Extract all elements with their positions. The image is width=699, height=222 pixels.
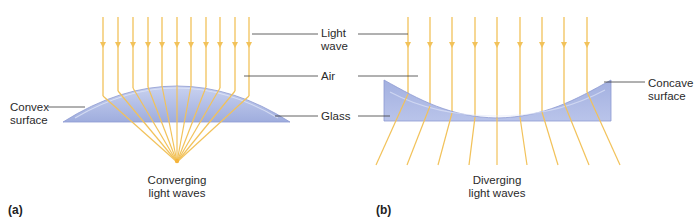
diverging-line2: light waves — [457, 187, 537, 200]
focal-point — [175, 159, 179, 163]
incident-light-rays-b — [408, 17, 587, 118]
glass-label: Glass — [321, 110, 350, 123]
converging-line1: Converging — [137, 174, 217, 187]
light-wave-line1: Light — [321, 27, 348, 40]
diverging-light-waves-label: Diverging light waves — [457, 174, 537, 199]
concave-lens-panel — [358, 17, 645, 165]
converging-light-waves-label: Converging light waves — [137, 174, 217, 199]
panel-a-tag: (a) — [8, 203, 23, 217]
convex-surface-label: Convex surface — [10, 101, 49, 126]
air-label: Air — [321, 70, 335, 83]
arrowhead-icons — [100, 42, 252, 48]
concave-label-line2: surface — [648, 90, 693, 103]
diverging-line1: Diverging — [457, 174, 537, 187]
convex-label-line2: surface — [10, 114, 49, 127]
incident-light-rays — [103, 17, 249, 96]
concave-label-line1: Concave — [648, 77, 693, 90]
concave-surface-label: Concave surface — [648, 77, 693, 102]
convex-lens-panel — [48, 17, 318, 163]
light-wave-line2: wave — [321, 40, 348, 53]
panel-b-tag: (b) — [376, 203, 391, 217]
light-wave-label: Light wave — [321, 27, 348, 52]
convex-label-line1: Convex — [10, 101, 49, 114]
converging-line2: light waves — [137, 187, 217, 200]
